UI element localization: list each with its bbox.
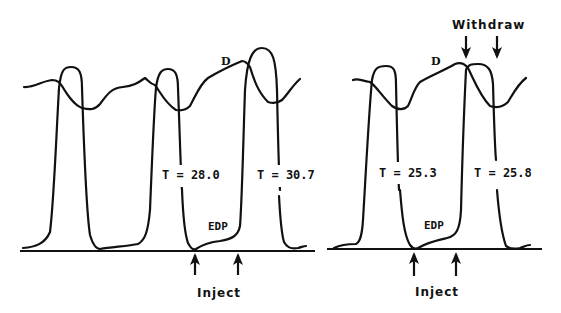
left-panel — [20, 48, 315, 251]
right-withdraw-arrow-1 — [461, 36, 471, 59]
left-dimension-label: D — [221, 55, 231, 68]
right-t2-label: T = 25.8 — [474, 166, 532, 180]
left-inject-arrow-2 — [233, 253, 243, 275]
left-inject-label: Inject — [197, 286, 241, 300]
right-inject-label: Inject — [415, 285, 459, 299]
left-t2-label: T = 30.7 — [257, 168, 315, 182]
left-pressure-trace-3 — [279, 196, 306, 248]
left-edp-label: EDP — [208, 220, 228, 233]
left-t1-label: T = 28.0 — [162, 168, 220, 182]
right-panel — [280, 63, 542, 249]
left-inject-arrow-1 — [190, 253, 200, 275]
right-pressure-trace — [334, 66, 399, 248]
left-dimension-trace — [24, 61, 282, 110]
right-inject-arrow-2 — [451, 252, 461, 276]
left-pressure-trace-2 — [182, 48, 280, 249]
right-pressure-trace-3 — [497, 190, 530, 249]
right-dimension-label: D — [431, 55, 441, 68]
right-withdraw-label: Withdraw — [452, 18, 525, 32]
left-pressure-trace — [23, 67, 182, 249]
right-withdraw-arrow-2 — [492, 36, 502, 59]
right-t1-label: T = 25.3 — [379, 166, 437, 180]
right-dimension-trace — [353, 63, 526, 109]
right-inject-arrow-1 — [409, 252, 419, 276]
waveform-figure — [0, 0, 561, 313]
right-edp-label: EDP — [424, 219, 444, 232]
